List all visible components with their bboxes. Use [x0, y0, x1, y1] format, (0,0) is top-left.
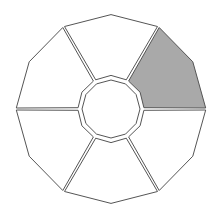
inner-dodecagon-hole [82, 80, 140, 138]
diagram-stage [0, 0, 222, 216]
sectored-dodecagon-figure [0, 0, 222, 216]
